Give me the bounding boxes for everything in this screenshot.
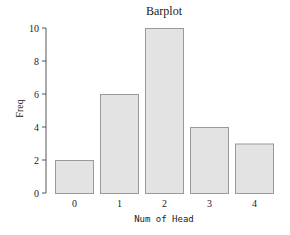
bar-2 (146, 29, 184, 194)
bar-1 (101, 95, 139, 194)
y-tick-label: 8 (34, 56, 39, 67)
bar-plot-area: 0246810 01234 (0, 0, 290, 235)
x-tick-label: 1 (117, 198, 122, 209)
x-tick-label: 0 (72, 198, 77, 209)
y-tick-label: 10 (29, 23, 39, 34)
x-tick-label: 4 (252, 198, 257, 209)
x-tick-label: 3 (207, 198, 212, 209)
bar-3 (191, 128, 229, 194)
x-tick-labels: 01234 (72, 198, 257, 209)
y-tick-label: 2 (34, 155, 39, 166)
x-tick-label: 2 (162, 198, 167, 209)
y-tick-label: 0 (34, 188, 39, 199)
y-axis: 0246810 (29, 23, 46, 199)
bars-group (56, 29, 274, 194)
y-tick-label: 6 (34, 89, 39, 100)
bar-4 (236, 144, 274, 194)
bar-0 (56, 161, 94, 194)
y-tick-label: 4 (34, 122, 39, 133)
